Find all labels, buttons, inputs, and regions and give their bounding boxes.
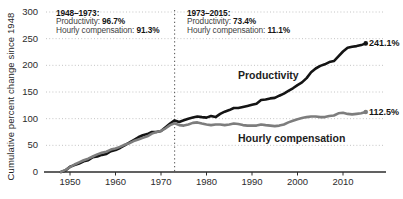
annotation-compensation-value: 11.1% [267, 25, 290, 35]
x-tick-label-1990: 1990 [235, 176, 269, 188]
x-tick-label-2010: 2010 [326, 176, 360, 188]
x-tick-label-1970: 1970 [144, 176, 178, 188]
y-tick-label-250: 250 [8, 33, 38, 45]
x-tick-label-1950: 1950 [53, 176, 87, 188]
annotation-compensation-label: Hourly compensation: [56, 25, 134, 35]
annotation-1973-2015: 1973–2015: Productivity: 73.4% Hourly co… [187, 9, 290, 35]
x-tick-label-1960: 1960 [99, 176, 133, 188]
series-end-dot-compensation [363, 110, 368, 115]
y-tick-label-50: 50 [8, 139, 38, 151]
compensation-series-label: Hourly compensation [238, 132, 345, 144]
end-label-productivity: 241.1% [369, 38, 400, 48]
y-tick-label-150: 150 [8, 86, 38, 98]
y-tick-label-200: 200 [8, 59, 38, 71]
x-tick-label-1980: 1980 [190, 176, 224, 188]
series-end-dot-productivity [363, 41, 368, 46]
annotation-compensation-label: Hourly compensation: [187, 25, 265, 35]
end-label-compensation: 112.5% [369, 107, 399, 117]
productivity-pay-gap-chart: Cumulative percent change since 1948 050… [0, 0, 403, 199]
y-tick-label-100: 100 [8, 113, 38, 125]
annotation-compensation-line: Hourly compensation: 11.1% [187, 26, 290, 35]
x-tick-label-2000: 2000 [281, 176, 315, 188]
y-tick-label-0: 0 [8, 166, 38, 178]
y-tick-label-300: 300 [8, 6, 38, 18]
annotation-1948-1973: 1948–1973: Productivity: 96.7% Hourly co… [56, 9, 160, 35]
productivity-series-label: Productivity [238, 69, 299, 81]
annotation-compensation-line: Hourly compensation: 91.3% [56, 26, 160, 35]
annotation-compensation-value: 91.3% [136, 25, 159, 35]
